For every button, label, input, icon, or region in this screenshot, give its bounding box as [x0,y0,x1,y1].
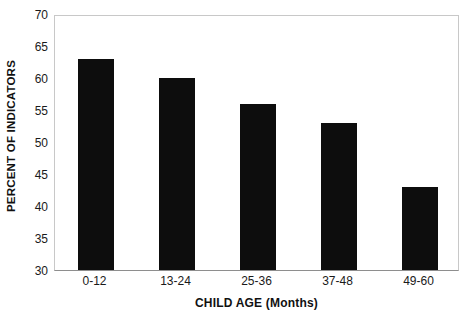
x-axis-tick-labels: 0-1213-2425-3637-4849-60 [54,274,459,292]
y-axis-tick-label: 40 [24,201,48,213]
y-axis-tick-label: 65 [24,41,48,53]
y-axis-tick-labels: 706560555045403530 [24,0,52,290]
plot-area [55,16,458,270]
y-axis-tick-label: 70 [24,9,48,21]
y-axis-tick-label: 30 [24,265,48,277]
y-axis-tick-label: 35 [24,233,48,245]
bar [240,104,276,270]
bar [321,123,357,270]
x-axis-tick-label: 0-12 [54,274,135,288]
bar [159,78,195,270]
bar [78,59,114,270]
bar [402,187,438,270]
x-axis-tick-label: 25-36 [216,274,297,288]
x-axis-tick-label: 13-24 [135,274,216,288]
y-axis-title: PERCENT OF INDICATORS [0,0,22,272]
plot-frame [54,15,459,271]
x-axis-title: CHILD AGE (Months) [54,296,459,310]
x-axis-tick-label: 49-60 [378,274,459,288]
y-axis-tick-label: 50 [24,137,48,149]
y-axis-title-text: PERCENT OF INDICATORS [5,60,17,212]
y-axis-tick-label: 60 [24,73,48,85]
x-axis-tick-label: 37-48 [297,274,378,288]
bar-chart-figure: PERCENT OF INDICATORS 706560555045403530… [0,0,469,328]
y-axis-tick-label: 55 [24,105,48,117]
y-axis-tick-label: 45 [24,169,48,181]
